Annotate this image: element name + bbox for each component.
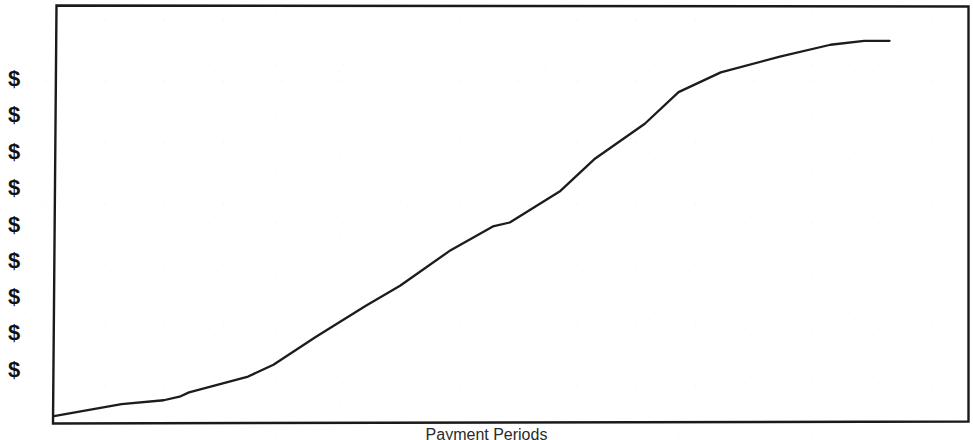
chart-screenshot: $ $ $ $ $ $ $ $ $ Payment Periods (0, 0, 973, 440)
x-axis-label: Payment Periods (0, 427, 973, 440)
plot-frame-border (53, 6, 969, 424)
data-line-cumulative-payment (54, 41, 890, 416)
plot-area (0, 0, 973, 440)
